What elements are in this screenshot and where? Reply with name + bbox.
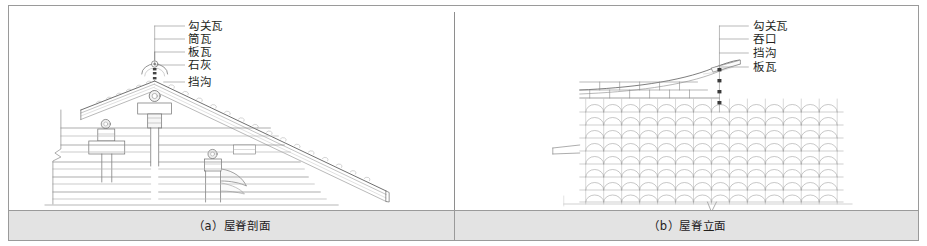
panel-b-caption: （b）屋脊立面 [455, 211, 919, 241]
tile-field [580, 99, 843, 204]
caption-band: （a）屋脊剖面 （b）屋脊立面 [9, 210, 918, 240]
panel-divider [454, 12, 455, 211]
ridge-band-masonry [580, 82, 720, 98]
side-flashing [553, 145, 580, 154]
panel-b-callout-1: 勾关瓦 [753, 20, 788, 32]
panel-b-callout-4: 板瓦 [753, 61, 776, 73]
plate-frame: 勾关瓦 筒瓦 板瓦 石灰 挡沟 [8, 5, 919, 241]
panel-a-caption: （a）屋脊剖面 [9, 211, 454, 241]
figure-root: 勾关瓦 筒瓦 板瓦 石灰 挡沟 [0, 0, 927, 246]
ridge-sweep [580, 60, 741, 94]
panel-b-callout-3: 挡沟 [753, 47, 776, 59]
panel-b-drawing [9, 6, 918, 211]
drawing-area: 勾关瓦 筒瓦 板瓦 石灰 挡沟 [9, 6, 918, 211]
panel-b-callout-2: 吞口 [753, 33, 776, 45]
